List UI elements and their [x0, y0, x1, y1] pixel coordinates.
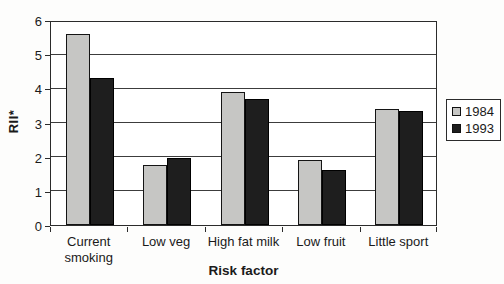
x-category-label-high-fat-milk: High fat milk [205, 234, 282, 250]
y-tick-label-1: 1 [2, 185, 42, 198]
plot-area [50, 21, 437, 226]
chart: RII* Risk factor 1984 1993 0123456Curren… [0, 0, 504, 284]
x-category-label-low-veg: Low veg [127, 234, 204, 250]
legend-item-1993: 1993 [452, 122, 494, 135]
bar-1993-low-fruit [322, 170, 346, 225]
x-tick-mark [282, 227, 283, 232]
x-tick-mark [127, 227, 128, 232]
y-tick-label-0: 0 [2, 220, 42, 233]
legend-swatch-1993 [452, 124, 461, 133]
bar-1993-high-fat-milk [245, 99, 269, 225]
x-category-label-little-sport: Little sport [360, 234, 437, 250]
y-tick-mark [45, 192, 50, 193]
bar-1993-low-veg [167, 158, 191, 225]
x-tick-mark [360, 227, 361, 232]
legend-swatch-1984 [452, 107, 461, 116]
y-tick-label-2: 2 [2, 151, 42, 164]
legend: 1984 1993 [446, 99, 501, 141]
bar-1984-little-sport [375, 109, 399, 225]
legend-label-1993: 1993 [465, 122, 494, 135]
y-tick-mark [45, 89, 50, 90]
bar-1993-current-smoking [90, 78, 114, 225]
y-tick-label-5: 5 [2, 49, 42, 62]
y-tick-mark [45, 124, 50, 125]
x-tick-mark [436, 227, 437, 232]
y-tick-mark [45, 21, 50, 22]
bar-1993-little-sport [399, 111, 423, 225]
x-category-label-low-fruit: Low fruit [282, 234, 359, 250]
gridline-5 [51, 54, 436, 55]
x-axis-title: Risk factor [50, 263, 437, 278]
x-category-label-current-smoking: Current smoking [50, 234, 127, 265]
legend-label-1984: 1984 [465, 105, 494, 118]
bar-1984-low-fruit [298, 160, 322, 225]
y-tick-mark [45, 55, 50, 56]
x-tick-mark [50, 227, 51, 232]
legend-item-1984: 1984 [452, 105, 494, 118]
bar-1984-high-fat-milk [221, 92, 245, 225]
x-tick-mark [205, 227, 206, 232]
bar-1984-current-smoking [66, 34, 90, 225]
bar-1984-low-veg [143, 165, 167, 225]
y-tick-mark [45, 158, 50, 159]
y-tick-label-4: 4 [2, 83, 42, 96]
y-tick-label-6: 6 [2, 15, 42, 28]
y-tick-label-3: 3 [2, 117, 42, 130]
